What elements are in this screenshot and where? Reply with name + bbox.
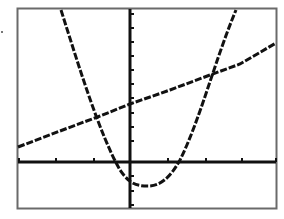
graph-screen (0, 0, 284, 219)
graph-frame (18, 9, 277, 209)
